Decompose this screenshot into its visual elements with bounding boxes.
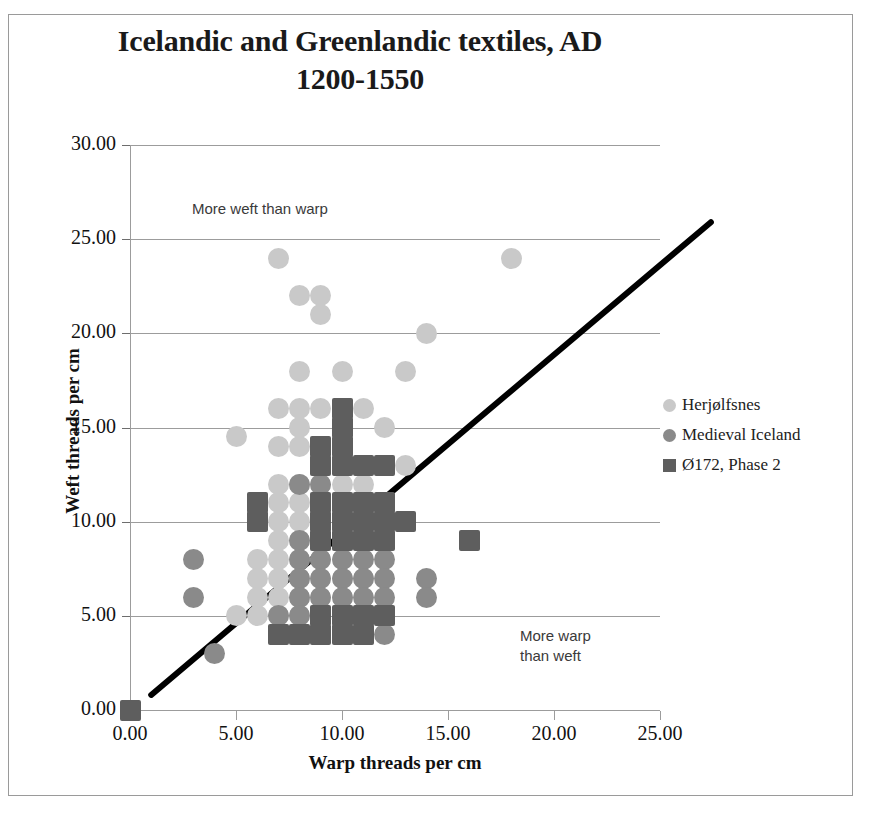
legend-item-0[interactable]: Herjølfsnes (663, 390, 863, 420)
data-point (310, 304, 331, 325)
data-point (332, 361, 353, 382)
data-point (332, 417, 353, 438)
y-axis-title: Weft threads per cm (62, 306, 84, 556)
x-tick-label-15: 15.00 (388, 722, 508, 745)
data-point (310, 549, 331, 570)
y-tick-label-0: 0.00 (0, 697, 116, 720)
data-point (374, 417, 395, 438)
x-tick-label-0: 0.00 (70, 722, 190, 745)
data-point (374, 511, 395, 532)
data-point (183, 587, 204, 608)
data-point (289, 474, 310, 495)
data-point (268, 248, 289, 269)
y-tick-5 (122, 616, 130, 617)
x-tick-10 (342, 711, 343, 720)
legend-circle-icon (663, 399, 676, 412)
gridline-y-15 (130, 428, 660, 429)
y-tick-10 (122, 522, 130, 523)
x-tick-label-20: 20.00 (494, 722, 614, 745)
data-point (332, 568, 353, 589)
data-point (226, 605, 247, 626)
data-point (289, 530, 310, 551)
data-point (353, 530, 374, 551)
data-point (289, 436, 310, 457)
data-point (247, 605, 268, 626)
data-point (332, 511, 353, 532)
data-point (332, 549, 353, 570)
data-point (289, 568, 310, 589)
data-point (416, 323, 437, 344)
data-point (226, 426, 247, 447)
data-point (353, 455, 374, 476)
x-tick-label-5: 5.00 (176, 722, 296, 745)
data-point (310, 624, 331, 645)
data-point (310, 398, 331, 419)
y-tick-20 (122, 333, 130, 334)
data-point (289, 398, 310, 419)
legend-circle-icon (663, 429, 676, 442)
data-point (395, 455, 416, 476)
annotation-more-warp-than-weft: More warp than weft (520, 626, 591, 666)
data-point (268, 530, 289, 551)
x-tick-20 (554, 711, 555, 720)
data-point (268, 549, 289, 570)
y-tick-30 (122, 145, 130, 146)
x-axis-line (130, 710, 660, 711)
y-tick-label-20: 20.00 (0, 320, 116, 343)
data-point (289, 549, 310, 570)
data-point (310, 511, 331, 532)
legend-item-1[interactable]: Medieval Iceland (663, 420, 863, 450)
data-point (395, 511, 416, 532)
y-tick-label-10: 10.00 (0, 509, 116, 532)
data-point (332, 436, 353, 457)
data-point (289, 417, 310, 438)
x-tick-label-25: 25.00 (600, 722, 720, 745)
data-point (247, 549, 268, 570)
data-point (374, 605, 395, 626)
legend-item-label: Ø172, Phase 2 (682, 455, 781, 475)
y-tick-25 (122, 239, 130, 240)
chart-legend: HerjølfsnesMedieval IcelandØ172, Phase 2 (663, 390, 863, 480)
data-point (289, 285, 310, 306)
data-point (332, 530, 353, 551)
data-point (353, 624, 374, 645)
x-tick-25 (660, 711, 661, 720)
data-point (395, 361, 416, 382)
y-axis-line (130, 145, 131, 711)
legend-item-label: Medieval Iceland (682, 425, 800, 445)
data-point (268, 624, 289, 645)
y-tick-label-15: 15.00 (0, 415, 116, 438)
data-point (416, 587, 437, 608)
data-point (310, 568, 331, 589)
data-point (374, 568, 395, 589)
data-point (332, 398, 353, 419)
data-point (268, 436, 289, 457)
x-axis-title: Warp threads per cm (130, 752, 660, 774)
data-point (374, 624, 395, 645)
data-point (268, 568, 289, 589)
y-tick-label-5: 5.00 (0, 603, 116, 626)
data-point (289, 361, 310, 382)
legend-item-label: Herjølfsnes (682, 395, 760, 415)
gridline-y-30 (130, 145, 660, 146)
data-point (353, 549, 374, 570)
data-point (332, 455, 353, 476)
data-point (501, 248, 522, 269)
legend-item-2[interactable]: Ø172, Phase 2 (663, 450, 863, 480)
data-point (353, 398, 374, 419)
data-point (374, 549, 395, 570)
annotation-more-weft-than-warp: More weft than warp (192, 199, 328, 219)
data-point (268, 398, 289, 419)
y-tick-label-30: 30.00 (0, 132, 116, 155)
data-point (374, 455, 395, 476)
data-point (353, 511, 374, 532)
data-point (459, 530, 480, 551)
data-point (310, 455, 331, 476)
x-tick-5 (236, 711, 237, 720)
data-point (289, 624, 310, 645)
data-point (416, 568, 437, 589)
data-point (310, 285, 331, 306)
data-point (268, 511, 289, 532)
data-point (204, 643, 225, 664)
data-point (374, 530, 395, 551)
